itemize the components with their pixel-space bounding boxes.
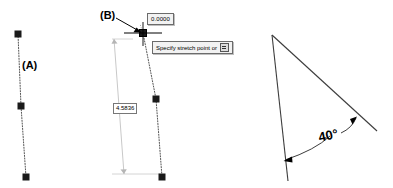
dynamic-input-prompt[interactable]: Specify stretch point or [152, 41, 233, 54]
length-dimension-value[interactable]: 4.5836 [113, 103, 137, 114]
dropdown-options-icon[interactable] [220, 43, 229, 52]
grip-square[interactable] [15, 31, 22, 38]
dynamic-input-prompt-text: Specify stretch point or [156, 45, 217, 51]
dim-arrow-bottom [121, 169, 127, 174]
grip-square[interactable] [153, 96, 160, 103]
dynamic-input-value-field[interactable]: 0.0000 [147, 13, 174, 25]
grip-square[interactable] [18, 103, 25, 110]
polyline-A[interactable] [15, 31, 30, 181]
label-b: (B) [100, 10, 115, 21]
dynamic-input-value-text: 0.0000 [151, 16, 170, 22]
figure-canvas: (A) (B) 0.0000 Specify stretch point or … [0, 0, 393, 188]
label-a: (A) [22, 60, 37, 71]
angle-leg-left[interactable] [272, 35, 288, 181]
angle-leg-diagonal[interactable] [272, 35, 377, 131]
geometry-layer [0, 0, 393, 188]
grip-square[interactable] [23, 174, 30, 181]
angle-figure[interactable] [272, 35, 377, 181]
leader-b [116, 18, 142, 33]
polyline-B-path [143, 33, 162, 177]
grip-square[interactable] [159, 174, 166, 181]
leader-b-line [116, 18, 139, 31]
dim-arrow-top [112, 39, 118, 44]
angle-arrow-lower [284, 157, 293, 163]
